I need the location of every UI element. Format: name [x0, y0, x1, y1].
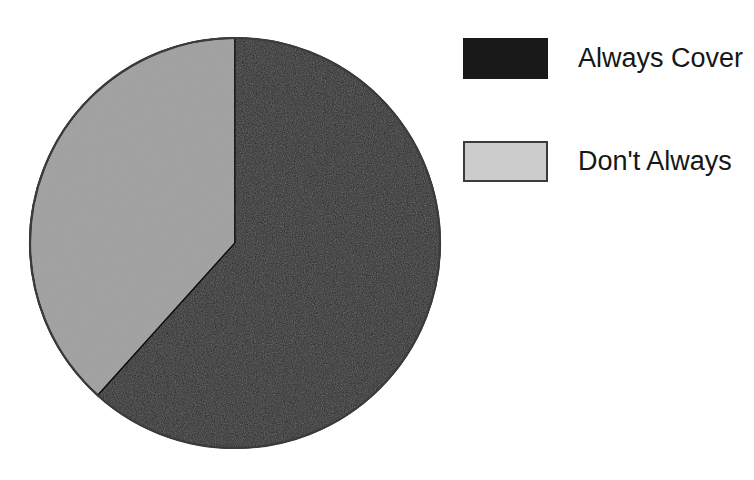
legend-swatch-always-cover	[463, 38, 548, 79]
legend-item-dont-always[interactable]: Don't Always	[463, 141, 732, 182]
pie-chart-figure: Always Cover Don't Always	[0, 0, 754, 480]
legend-item-always-cover[interactable]: Always Cover	[463, 38, 743, 79]
legend-label-dont-always: Don't Always	[578, 148, 732, 175]
legend-label-always-cover: Always Cover	[578, 45, 743, 72]
pie-slices	[30, 38, 440, 448]
legend-swatch-dont-always	[463, 141, 548, 182]
